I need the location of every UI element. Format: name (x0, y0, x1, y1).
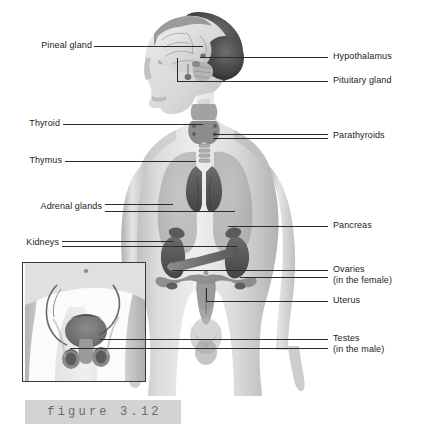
leader-adrenal-glands-lower (105, 211, 235, 212)
label-pineal-gland: Pineal gland (8, 40, 92, 51)
label-uterus-text: Uterus (333, 295, 360, 305)
label-kidneys-text: Kidneys (26, 237, 59, 247)
label-parathyroids-text: Parathyroids (333, 130, 385, 140)
leader-adrenal-glands-upper (105, 204, 173, 205)
label-hypothalamus: Hypothalamus (333, 51, 392, 62)
label-kidneys: Kidneys (8, 237, 59, 248)
leader-pituitary-vertical (177, 58, 178, 81)
label-ovaries: Ovaries (in the female) (333, 264, 392, 286)
leader-ovaries-upper (172, 270, 328, 271)
label-pituitary-gland-text: Pituitary gland (333, 75, 392, 85)
leader-ovaries-lower (240, 277, 328, 278)
label-pancreas-text: Pancreas (333, 220, 372, 230)
label-testes-subtext: (in the male) (333, 344, 384, 355)
leader-pineal-gland (94, 46, 203, 47)
male-pelvis-inset (22, 262, 146, 382)
leader-pancreas (228, 226, 328, 227)
label-thymus: Thymus (8, 155, 62, 166)
label-ovaries-text: Ovaries (333, 264, 365, 274)
leader-hypothalamus (200, 57, 328, 58)
leader-testes-lower (70, 348, 328, 349)
label-hypothalamus-text: Hypothalamus (333, 51, 392, 61)
figure-caption: figure 3.12 (25, 400, 181, 424)
label-pancreas: Pancreas (333, 220, 372, 231)
leader-testes-upper (100, 339, 328, 340)
leader-uterus-vertical (206, 288, 207, 301)
label-thyroid-text: Thyroid (29, 118, 60, 128)
leader-kidneys-lower (62, 246, 237, 247)
leader-thymus (65, 161, 196, 162)
leader-thyroid (63, 124, 203, 125)
leader-uterus (206, 301, 328, 302)
label-thymus-text: Thymus (29, 155, 62, 165)
label-pineal-gland-text: Pineal gland (41, 40, 92, 50)
label-uterus: Uterus (333, 295, 360, 306)
label-pituitary-gland: Pituitary gland (333, 75, 392, 86)
label-thyroid: Thyroid (8, 118, 60, 129)
leader-parathyroids-upper (213, 134, 328, 135)
label-testes-text: Testes (333, 333, 360, 343)
label-adrenal-glands: Adrenal glands (8, 201, 102, 212)
label-parathyroids: Parathyroids (333, 130, 385, 141)
label-adrenal-glands-text: Adrenal glands (41, 201, 102, 211)
leader-parathyroids-lower (213, 138, 328, 139)
label-ovaries-subtext: (in the female) (333, 275, 392, 286)
endocrine-figure: Pineal gland Thyroid Thymus Adrenal glan… (0, 0, 422, 428)
leader-pituitary-gland (177, 81, 328, 82)
male-pelvis-illustration (22, 262, 146, 382)
label-testes: Testes (in the male) (333, 333, 384, 355)
leader-kidneys-upper (62, 241, 174, 242)
